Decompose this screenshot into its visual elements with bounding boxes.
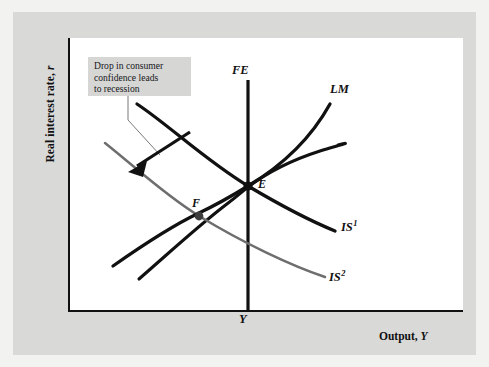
diagram-curves: [0, 0, 489, 367]
callout-leader-line: [128, 96, 160, 155]
curve-lm-final: [113, 104, 330, 266]
figure-container: Real interest rate, r Output, Y Drop in …: [0, 0, 489, 367]
point-f-marker: [195, 212, 204, 221]
point-e-marker: [243, 181, 252, 190]
curve-is1-final: [137, 104, 335, 231]
